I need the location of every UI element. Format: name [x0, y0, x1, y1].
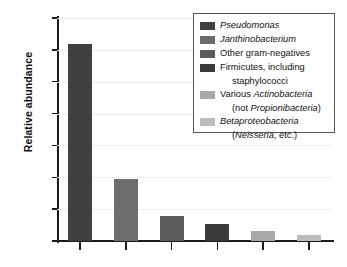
legend-label-continuation: staphylococci [200, 75, 329, 88]
legend-swatch [200, 22, 215, 30]
legend-swatch [200, 91, 215, 99]
legend-label: Janthinobacterium [220, 33, 296, 46]
y-axis-tick [52, 17, 57, 18]
y-axis-tick [52, 113, 57, 114]
legend-item: Firmicutes, including [200, 61, 329, 74]
legend-label: Firmicutes, including [220, 61, 305, 74]
legend-label: Various Actinobacteria [220, 88, 312, 101]
legend-label-continuation: (not Propionibacteria) [200, 102, 329, 115]
legend-label: Pseudomonas [220, 19, 279, 32]
legend-label-continuation: (Neisseria, etc.) [200, 129, 329, 142]
legend-swatch [200, 50, 215, 58]
legend-item: Pseudomonas [200, 19, 329, 32]
y-axis-tick [52, 177, 57, 178]
y-axis-tick [52, 208, 57, 209]
legend-label: Other gram-negatives [220, 47, 310, 60]
y-axis-title: Relative abundance [22, 22, 34, 182]
bar [114, 179, 138, 241]
legend-item: Betaproteobacteria [200, 115, 329, 128]
legend-item: Various Actinobacteria [200, 88, 329, 101]
gridline [57, 209, 332, 210]
y-axis-tick [52, 49, 57, 50]
legend-label: Betaproteobacteria [220, 115, 299, 128]
bar [160, 216, 184, 241]
x-axis-tick [308, 242, 310, 250]
bar [68, 44, 92, 242]
legend-swatch [200, 64, 215, 72]
x-axis-tick [262, 242, 264, 250]
bar-chart-figure: Relative abundance PseudomonasJanthinoba… [0, 0, 347, 267]
chart-legend: PseudomonasJanthinobacteriumOther gram-n… [193, 13, 335, 133]
x-axis-tick [217, 242, 219, 250]
y-axis-tick [52, 81, 57, 82]
bar [297, 235, 321, 241]
bar [251, 231, 275, 241]
legend-swatch [200, 118, 215, 126]
legend-swatch [200, 36, 215, 44]
gridline [57, 177, 332, 178]
legend-item: Other gram-negatives [200, 47, 329, 60]
legend-item: Janthinobacterium [200, 33, 329, 46]
x-axis-tick [171, 242, 173, 250]
x-axis-tick [79, 242, 81, 250]
x-axis-tick [125, 242, 127, 250]
y-axis-tick [52, 240, 57, 241]
bar [205, 224, 229, 241]
y-axis-tick [52, 145, 57, 146]
gridline [57, 145, 332, 146]
